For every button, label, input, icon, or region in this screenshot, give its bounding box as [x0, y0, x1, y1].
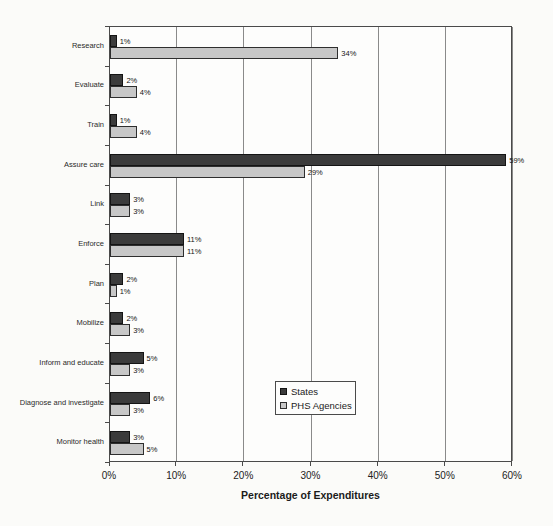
y-tick-4	[105, 185, 109, 186]
category-label-train: Train	[0, 120, 104, 130]
legend-item-phs-agencies: PHS Agencies	[280, 398, 351, 412]
value-label-plan-1: 1%	[120, 287, 131, 296]
y-tick-8	[105, 343, 109, 344]
category-label-research: Research	[0, 41, 104, 51]
x-tick-30%	[310, 462, 311, 466]
legend-label-phs-agencies: PHS Agencies	[291, 400, 352, 411]
value-label-evaluate-1: 4%	[140, 88, 151, 97]
value-label-research-0: 1%	[120, 37, 131, 46]
value-label-enforce-0: 11%	[187, 235, 201, 244]
bar-phs-agencies-plan	[110, 285, 117, 297]
x-tick-label-20%: 20%	[223, 470, 263, 481]
y-tick-0	[105, 26, 109, 27]
category-label-monitor-health: Monitor health	[0, 437, 104, 447]
bar-phs-agencies-diagnose-and-investigate	[110, 404, 130, 416]
y-tick-2	[105, 105, 109, 106]
bar-phs-agencies-inform-and-educate	[110, 364, 130, 376]
x-tick-60%	[511, 462, 512, 466]
bar-states-mobilize	[110, 312, 123, 324]
category-label-plan: Plan	[0, 279, 104, 289]
phs-agencies-swatch-icon	[280, 402, 287, 409]
gridline-20%	[243, 27, 244, 461]
y-tick-5	[105, 224, 109, 225]
x-axis-title: Percentage of Expenditures	[109, 489, 512, 501]
y-tick-7	[105, 303, 109, 304]
category-label-enforce: Enforce	[0, 239, 104, 249]
bar-phs-agencies-train	[110, 126, 137, 138]
value-label-enforce-1: 11%	[187, 247, 201, 256]
y-tick-9	[105, 383, 109, 384]
x-tick-40%	[377, 462, 378, 466]
value-label-mobilize-0: 2%	[126, 314, 137, 323]
states-swatch-icon	[280, 388, 287, 395]
value-label-plan-0: 2%	[126, 275, 137, 284]
category-label-diagnose-and-investigate: Diagnose and investigate	[0, 398, 104, 408]
y-tick-1	[105, 66, 109, 67]
bar-states-evaluate	[110, 74, 123, 86]
value-label-train-0: 1%	[120, 116, 131, 125]
value-label-monitor-health-1: 5%	[147, 445, 158, 454]
gridline-50%	[445, 27, 446, 461]
y-tick-11	[105, 462, 109, 463]
value-label-inform-and-educate-0: 5%	[147, 354, 158, 363]
bar-states-enforce	[110, 233, 184, 245]
value-label-link-0: 3%	[133, 195, 144, 204]
value-label-monitor-health-0: 3%	[133, 433, 144, 442]
bar-phs-agencies-assure-care	[110, 166, 305, 178]
x-tick-50%	[444, 462, 445, 466]
y-tick-10	[105, 422, 109, 423]
value-label-diagnose-and-investigate-0: 6%	[153, 394, 164, 403]
x-tick-label-50%: 50%	[425, 470, 465, 481]
bar-phs-agencies-link	[110, 205, 130, 217]
bar-phs-agencies-enforce	[110, 245, 184, 257]
value-label-research-1: 34%	[341, 49, 356, 58]
bar-phs-agencies-evaluate	[110, 86, 137, 98]
value-label-assure-care-0: 59%	[509, 156, 524, 165]
category-label-assure-care: Assure care	[0, 160, 104, 170]
legend-item-states: States	[280, 384, 351, 398]
value-label-link-1: 3%	[133, 207, 144, 216]
value-label-train-1: 4%	[140, 128, 151, 137]
category-label-evaluate: Evaluate	[0, 80, 104, 90]
gridline-60%	[512, 27, 513, 461]
legend-label-states: States	[291, 386, 318, 397]
x-tick-label-60%: 60%	[492, 470, 532, 481]
value-label-assure-care-1: 29%	[308, 168, 323, 177]
bar-states-diagnose-and-investigate	[110, 392, 150, 404]
x-tick-label-10%: 10%	[156, 470, 196, 481]
category-label-mobilize: Mobilize	[0, 318, 104, 328]
bar-states-research	[110, 35, 117, 47]
value-label-mobilize-1: 3%	[133, 326, 144, 335]
bar-phs-agencies-research	[110, 47, 338, 59]
category-label-link: Link	[0, 199, 104, 209]
legend-box: States PHS Agencies	[275, 381, 356, 415]
bar-states-train	[110, 114, 117, 126]
y-tick-6	[105, 264, 109, 265]
bar-states-inform-and-educate	[110, 352, 144, 364]
value-label-evaluate-0: 2%	[126, 76, 137, 85]
y-tick-3	[105, 145, 109, 146]
category-label-inform-and-educate: Inform and educate	[0, 358, 104, 368]
value-label-inform-and-educate-1: 3%	[133, 366, 144, 375]
bar-states-assure-care	[110, 154, 506, 166]
value-label-diagnose-and-investigate-1: 3%	[133, 406, 144, 415]
bar-phs-agencies-mobilize	[110, 324, 130, 336]
bar-states-plan	[110, 273, 123, 285]
bar-chart-figure: 1%34%2%4%1%4%59%29%3%3%11%11%2%1%2%3%5%3…	[0, 0, 553, 526]
bar-phs-agencies-monitor-health	[110, 443, 144, 455]
bar-states-monitor-health	[110, 431, 130, 443]
x-tick-label-40%: 40%	[358, 470, 398, 481]
x-tick-label-0%: 0%	[89, 470, 129, 481]
x-tick-20%	[242, 462, 243, 466]
bar-states-link	[110, 193, 130, 205]
gridline-40%	[378, 27, 379, 461]
x-tick-10%	[175, 462, 176, 466]
x-tick-0%	[109, 462, 110, 466]
x-tick-label-30%: 30%	[291, 470, 331, 481]
